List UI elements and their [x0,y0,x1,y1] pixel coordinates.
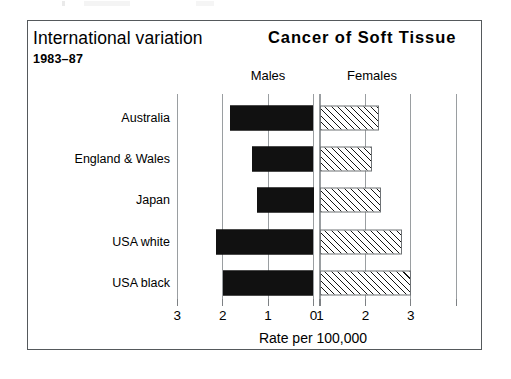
axis-tick-5 [365,299,366,306]
axis-tick-4 [319,299,320,306]
row-label-3: USA white [112,235,170,249]
bar-male-4 [223,271,314,296]
x-axis-caption: Rate per 100,000 [259,330,367,346]
row-label-2: Japan [136,193,170,207]
bar-male-0 [230,106,314,131]
bar-male-2 [257,188,314,213]
gridline-1 [222,94,223,299]
bar-male-1 [252,147,313,172]
bar-female-1 [320,147,372,172]
axis-tick-0 [177,299,178,306]
bar-female-0 [320,106,379,131]
axis-tick-2 [268,299,269,306]
bar-female-2 [320,188,381,213]
row-label-4: USA black [112,276,170,290]
gridline-0 [177,94,178,299]
row-label-1: England & Wales [75,152,170,166]
axis-tick-1 [222,299,223,306]
bar-male-3 [216,230,314,255]
axis-tick-label-1: 2 [219,308,227,323]
axis-tick-3 [313,299,314,306]
axis-tick-6 [410,299,411,306]
axis-tick-label-5: 2 [362,308,370,323]
gridline-6 [410,94,411,299]
axis-tick-7 [456,299,457,306]
row-label-0: Australia [121,111,170,125]
axis-tick-label-4: 1 [316,308,324,323]
axis-tick-label-2: 1 [264,308,272,323]
chart-plot-area: 3210123AustraliaEngland & WalesJapanUSA … [0,0,511,379]
bar-female-4 [320,271,411,296]
bar-female-3 [320,230,402,255]
axis-tick-label-6: 3 [407,308,415,323]
axis-tick-label-0: 3 [174,308,182,323]
gridline-7 [456,94,457,299]
